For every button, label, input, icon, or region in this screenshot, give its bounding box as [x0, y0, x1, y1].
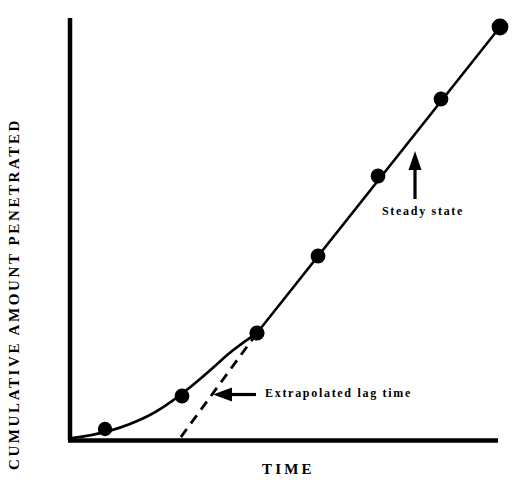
extrapolated-lag-time-annotation-label: Extrapolated lag time	[265, 386, 412, 401]
data-point	[249, 325, 264, 340]
lag-time-arrow-icon	[213, 388, 256, 402]
steady-state-annotation-label: Steady state	[382, 204, 464, 219]
plot-area	[0, 0, 518, 493]
data-point	[492, 19, 509, 36]
steady-state-arrow-icon	[409, 151, 422, 199]
data-point	[371, 169, 386, 184]
permeation-curve	[72, 27, 500, 438]
data-point	[434, 92, 449, 107]
data-point	[175, 389, 190, 404]
data-point-markers	[98, 19, 509, 437]
x-axis-label: TIME	[262, 461, 315, 478]
chart-figure: CUMULATIVE AMOUNT PENETRATED TIME Steady…	[0, 0, 518, 493]
data-point	[311, 249, 326, 264]
data-point	[98, 422, 112, 436]
y-axis-label: CUMULATIVE AMOUNT PENETRATED	[6, 118, 23, 470]
